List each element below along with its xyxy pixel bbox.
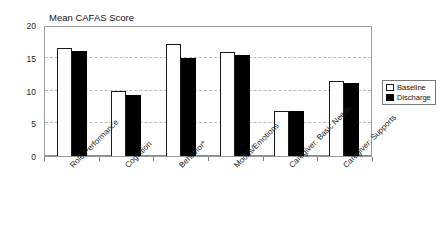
legend-item[interactable]: Discharge — [386, 94, 431, 102]
y-tick-label-0: 0 — [31, 153, 36, 162]
bar-baseline[interactable] — [220, 52, 235, 156]
bar-group — [45, 27, 99, 156]
hollow-square-icon — [386, 84, 394, 91]
legend-label: Discharge — [397, 94, 431, 102]
bar-baseline[interactable] — [274, 111, 289, 156]
y-tick-label-20: 20 — [27, 22, 36, 31]
x-axis-category-labels: Role PerformanceCognitionBehavior*Moods/… — [44, 160, 372, 249]
y-tick-label-5: 5 — [31, 120, 36, 129]
bar-discharge[interactable] — [344, 83, 359, 156]
legend-label: Baseline — [397, 84, 426, 92]
bar-discharge[interactable] — [235, 55, 250, 156]
y-tick-label-10: 10 — [27, 87, 36, 96]
legend-item[interactable]: Baseline — [386, 84, 431, 92]
bar-group — [208, 27, 262, 156]
bar-baseline[interactable] — [166, 44, 181, 156]
chart-title: Mean CAFAS Score — [49, 13, 134, 23]
mean-cafas-score-bar-chart: Mean CAFAS Score 05101520 Role Performan… — [0, 0, 445, 249]
bar-discharge[interactable] — [181, 58, 196, 156]
y-axis-tick-labels: 05101520 — [0, 26, 42, 157]
x-tick-mark — [372, 157, 373, 161]
filled-square-icon — [386, 94, 394, 101]
bar-group — [154, 27, 208, 156]
chart-legend: BaselineDischarge — [382, 80, 436, 105]
bar-discharge[interactable] — [72, 51, 87, 156]
bar-baseline[interactable] — [57, 48, 72, 156]
y-tick-label-15: 15 — [27, 55, 36, 64]
